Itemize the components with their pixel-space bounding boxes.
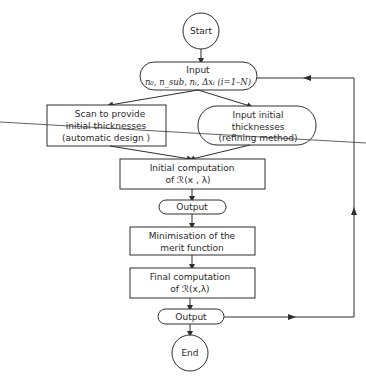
initial-comp-line-1: Initial computation <box>150 163 235 173</box>
end-label: End <box>181 348 198 358</box>
minimisation-node: Minimisation of the merit function <box>130 227 255 255</box>
flowchart-canvas: Start Input n₀, n_sub, nᵢ, Δxᵢ (i=1–N) S… <box>0 0 366 384</box>
edge-input-scan <box>110 90 198 105</box>
input-node: Input n₀, n_sub, nᵢ, Δxᵢ (i=1–N) <box>140 62 257 90</box>
initial-comp-line-2: of ℛ(x , λ) <box>166 175 211 185</box>
minimisation-line-2: merit function <box>160 243 224 253</box>
final-comp-line-1: Final computation <box>150 272 231 282</box>
initial-computation-node: Initial computation of ℛ(x , λ) <box>120 159 265 189</box>
output2-node: Output <box>158 309 224 324</box>
start-node: Start <box>183 13 219 49</box>
input-initial-line-1: Input initial <box>233 110 284 120</box>
input-initial-line-2: thicknesses <box>232 122 285 132</box>
scan-line-3: (automatic design ) <box>62 133 150 143</box>
final-comp-line-2: of ℛ(x,λ) <box>170 284 209 294</box>
output1-node: Output <box>159 200 226 214</box>
output2-label: Output <box>175 312 207 322</box>
edge-initial-initial-comp <box>192 145 250 159</box>
output1-label: Output <box>176 202 208 212</box>
minimisation-line-1: Minimisation of the <box>149 231 236 241</box>
input-title: Input <box>186 65 210 75</box>
scan-line-1: Scan to provide <box>75 109 146 119</box>
final-computation-node: Final computation of ℛ(x,λ) <box>130 268 255 298</box>
start-label: Start <box>190 26 212 36</box>
input-params: n₀, n_sub, nᵢ, Δxᵢ (i=1–N) <box>145 77 251 88</box>
end-node: End <box>172 335 208 371</box>
edge-input-initial <box>198 90 250 106</box>
edge-scan-initial-comp <box>110 146 190 159</box>
